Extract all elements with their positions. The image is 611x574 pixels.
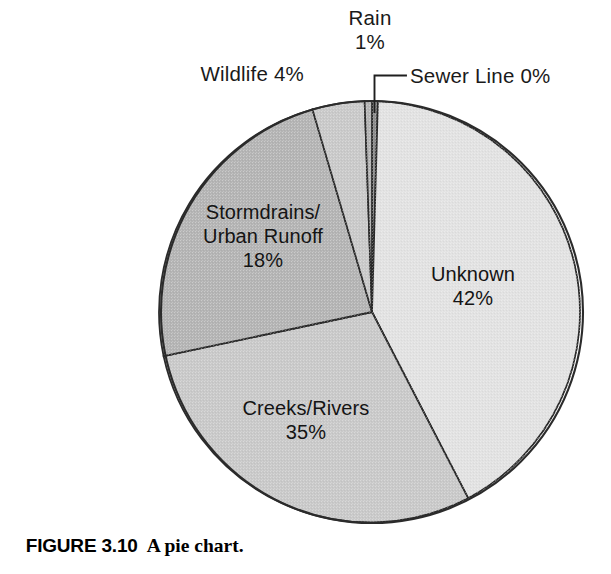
- figure-caption-text: A pie chart.: [147, 535, 244, 556]
- pie-label-creeks-rivers: Creeks/Rivers 35%: [208, 396, 404, 444]
- pie-label-wildlife: Wildlife 4%: [128, 62, 304, 86]
- figure-caption-number: FIGURE 3.10: [26, 535, 138, 556]
- figure-page: Rain 1% Wildlife 4% Sewer Line 0% Unknow…: [0, 0, 611, 574]
- figure-caption: FIGURE 3.10A pie chart.: [8, 517, 244, 574]
- pie-label-unknown: Unknown 42%: [398, 262, 548, 310]
- pie-label-sewer-line: Sewer Line 0%: [410, 64, 610, 88]
- pie-texture-overlay: [161, 101, 583, 523]
- pie-label-stormdrains-urban-runoff: Stormdrains/ Urban Runoff 18%: [168, 200, 358, 272]
- pie-label-rain: Rain 1%: [316, 6, 424, 54]
